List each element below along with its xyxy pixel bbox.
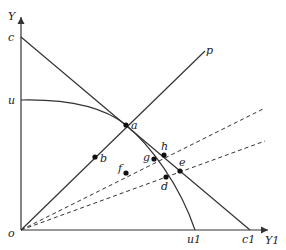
diagram-svg: Y Y1 o c u u1 c1 p a b g h e d f xyxy=(0,0,286,250)
g-label: g xyxy=(143,151,150,164)
a-label: a xyxy=(131,119,138,132)
u-label: u xyxy=(8,94,15,107)
point-g xyxy=(151,156,156,161)
c-label: c xyxy=(8,31,14,44)
d-label: d xyxy=(161,180,168,193)
point-e xyxy=(177,168,182,173)
f-label: f xyxy=(117,162,124,175)
e-label: e xyxy=(179,156,186,169)
origin-label: o xyxy=(8,227,15,240)
h-label: h xyxy=(161,140,168,153)
u1-label: u1 xyxy=(187,233,201,246)
diagram-container: Y Y1 o c u u1 c1 p a b g h e d f xyxy=(0,0,286,250)
b-label: b xyxy=(100,152,107,165)
point-a xyxy=(123,122,128,127)
y-axis-label: Y xyxy=(8,10,17,23)
p-label: p xyxy=(206,44,213,57)
point-h xyxy=(161,152,166,157)
ray-op xyxy=(21,51,205,230)
point-f xyxy=(123,170,128,175)
point-d xyxy=(163,174,168,179)
point-b xyxy=(92,154,97,159)
utility-frontier-curve xyxy=(21,100,195,230)
x-axis-label: Y1 xyxy=(265,234,279,247)
c1-label: c1 xyxy=(242,233,255,246)
